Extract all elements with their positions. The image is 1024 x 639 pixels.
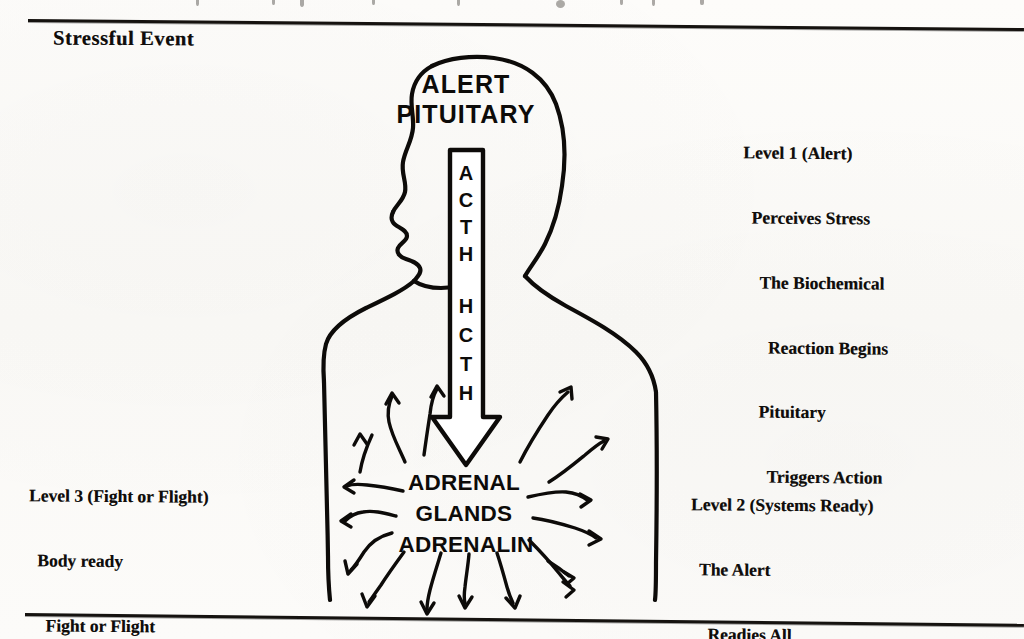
adrenal-label-line3: ADRENALIN xyxy=(398,532,533,557)
adrenal-label-line1: ADRENAL xyxy=(408,470,520,495)
caption-level-3: Level 3 (Fight or Flight) Body ready Fig… xyxy=(27,442,209,639)
caption-level-3-line-0: Level 3 (Fight or Flight) xyxy=(29,485,209,508)
arrow-letter-h2: H xyxy=(459,295,473,317)
arrow-letter-h3: H xyxy=(459,382,473,404)
caption-level-3-line-1: Body ready xyxy=(28,550,208,573)
arrow-letter-a: A xyxy=(459,162,473,184)
caption-level-2-line-2: Readies All xyxy=(690,624,872,639)
head-label-pituitary: PITUITARY xyxy=(396,100,535,128)
arrow-letter-t: T xyxy=(460,216,472,238)
caption-level-1-line-3: Reaction Begins xyxy=(742,337,889,360)
adrenal-label-line2: GLANDS xyxy=(416,501,513,526)
caption-level-1-line-2: The Biochemical xyxy=(742,272,889,295)
caption-level-3-line-2: Fight or Flight xyxy=(28,615,208,638)
caption-level-2: Level 2 (Systems Ready) The Alert Readie… xyxy=(688,451,873,639)
arrow-letter-t2: T xyxy=(460,353,472,375)
arrow-letter-c2: C xyxy=(459,324,473,346)
caption-level-1-line-4: Pituitary xyxy=(741,402,888,425)
diagram-page: Stressful Event xyxy=(0,0,1024,639)
caption-level-2-line-1: The Alert xyxy=(690,559,872,582)
arrow-letter-h: H xyxy=(459,243,473,265)
arrow-letter-c: C xyxy=(459,189,473,211)
head-label-alert: ALERT xyxy=(422,70,511,98)
caption-level-1-line-0: Level 1 (Alert) xyxy=(743,143,890,166)
caption-level-2-line-0: Level 2 (Systems Ready) xyxy=(691,494,873,517)
caption-level-1-line-1: Perceives Stress xyxy=(743,207,890,230)
